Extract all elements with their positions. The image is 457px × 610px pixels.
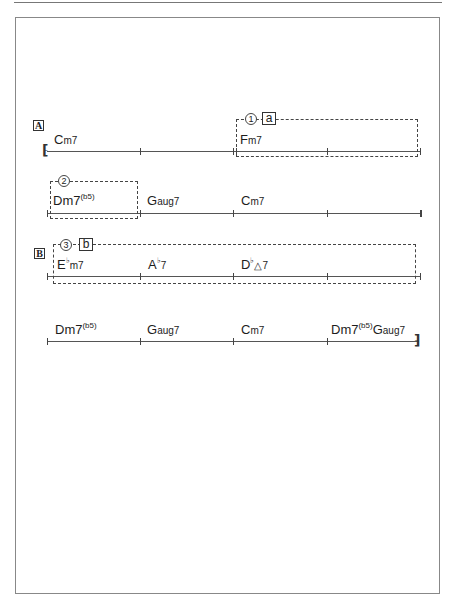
- barline-start: [47, 210, 48, 217]
- annotation-letter-b: b: [79, 238, 93, 251]
- annotation-number-2: 2: [58, 175, 70, 187]
- barline: [140, 148, 141, 155]
- chord-ebm7: E♭m7: [57, 258, 84, 273]
- rehearsal-mark-a: A: [33, 120, 44, 131]
- barline: [140, 338, 141, 345]
- chord-cm7: Cm7: [241, 194, 264, 209]
- barline: [327, 210, 328, 217]
- chord-dbmaj7: D♭△7: [241, 258, 268, 273]
- chord-gaug7: Gaug7: [147, 194, 179, 209]
- barline-end: [420, 273, 421, 280]
- barline-start: [47, 338, 48, 345]
- chord-fm7: Fm7: [240, 133, 262, 148]
- barline-end: [420, 148, 421, 155]
- chart-frame: [15, 17, 440, 594]
- barline-start: [47, 273, 48, 280]
- annotation-box-3: [53, 244, 416, 284]
- rehearsal-mark-b: B: [34, 248, 45, 259]
- barline: [233, 210, 234, 217]
- chord-ab7: A♭7: [148, 258, 166, 273]
- chord-dm7b5: Dm7(b5): [53, 194, 95, 208]
- repeat-start-icon: ⁅: [42, 143, 48, 157]
- repeat-end-icon: ⁆: [414, 333, 420, 347]
- annotation-number-1: 1: [245, 113, 257, 125]
- page-header-rule: [14, 2, 442, 3]
- barline: [327, 338, 328, 345]
- barline: [233, 338, 234, 345]
- chord-gaug7: Gaug7: [147, 323, 179, 338]
- annotation-number-3: 3: [60, 239, 72, 251]
- chord-cm7: Cm7: [241, 323, 264, 338]
- barline: [140, 210, 141, 217]
- chord-cm7: Cm7: [54, 133, 77, 148]
- barline-end: [420, 210, 422, 217]
- annotation-letter-a: a: [262, 112, 276, 125]
- chord-dm7b5: Dm7(b5): [55, 323, 97, 337]
- chord-dm7b5-gaug7: Dm7(b5)Gaug7: [331, 323, 405, 338]
